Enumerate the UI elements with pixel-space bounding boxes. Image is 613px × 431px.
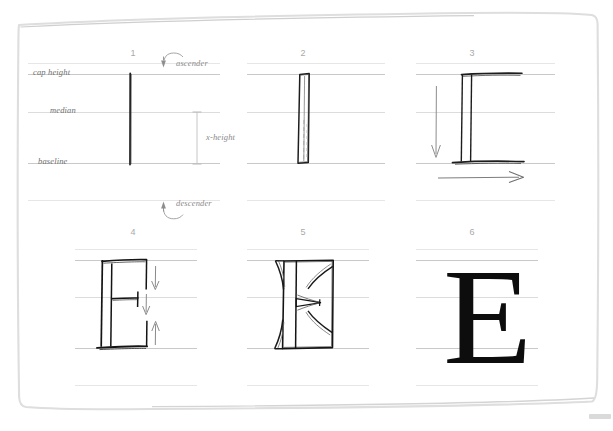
x-height-bracket: [190, 108, 204, 168]
annotation-label-x-height: x-height: [206, 132, 235, 142]
rule-baseline-p4: [75, 348, 197, 349]
rule-median-p3: [416, 112, 555, 113]
rule-baseline-p3: [416, 163, 555, 164]
rule-ascender-p5: [247, 249, 369, 250]
rule-capheight-p4: [75, 260, 197, 261]
panel-1-stem-sketch: [124, 70, 138, 170]
rule-baseline-p5: [247, 348, 369, 349]
guide-label-median: median: [50, 105, 76, 115]
panel-5-bracketed-serif-sketch: [266, 252, 352, 356]
panel-number-2: 2: [293, 48, 313, 58]
typography-construction-sheet: cap height median baseline ascender desc…: [0, 0, 613, 431]
rule-baseline-p2: [247, 163, 385, 164]
corner-mark: [589, 414, 611, 419]
panel-number-3: 3: [462, 48, 482, 58]
panel-2-tapered-stem-sketch: [288, 68, 322, 172]
rule-median-p5: [247, 297, 369, 298]
rule-descender-p4: [75, 385, 197, 386]
panel-number-5: 5: [293, 227, 313, 237]
panel-3-serif-stem-sketch: [430, 60, 550, 190]
rule-ascender-p2: [247, 63, 385, 64]
guide-label-baseline: baseline: [38, 156, 68, 166]
rule-ascender-p3: [416, 63, 555, 64]
panel-4-arms-sketch: [95, 250, 195, 358]
panel-number-1: 1: [123, 48, 143, 58]
rule-ascender-p4: [75, 249, 197, 250]
rule-descender-p5: [247, 385, 369, 386]
annotation-label-ascender: ascender: [176, 58, 208, 68]
rule-descender-p2: [247, 200, 385, 201]
panel-6-final-glyph: E: [443, 248, 532, 386]
rule-median-p2: [247, 112, 385, 113]
panel-number-6: 6: [462, 227, 482, 237]
rule-capheight-p5: [247, 260, 369, 261]
rule-median-p4: [75, 297, 197, 298]
panel-number-4: 4: [123, 227, 143, 237]
rule-capheight-p2: [247, 74, 385, 75]
guide-label-cap-height: cap height: [33, 67, 70, 77]
rule-capheight-p3: [416, 74, 555, 75]
annotation-label-descender: descender: [176, 198, 212, 208]
rule-descender-p3: [416, 200, 555, 201]
